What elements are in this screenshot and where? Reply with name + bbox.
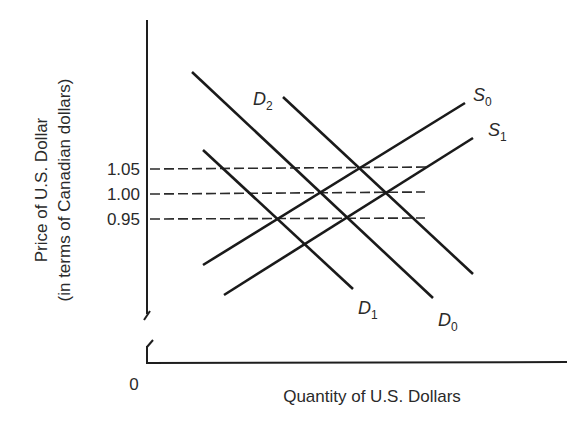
y-tick-105: 1.05 (107, 160, 140, 179)
exchange-rate-chart: 1.05 1.00 0.95 0 Price of U.S. Dollar (i… (0, 0, 585, 429)
y-axis-label-line2: (in terms of Canadian dollars) (55, 79, 74, 302)
supply-curve-s0 (203, 103, 465, 265)
y-axis-label-line1: Price of U.S. Dollar (32, 117, 51, 262)
label-d2: D2 (253, 89, 273, 113)
ref-line-095 (150, 218, 425, 219)
x-axis (147, 362, 567, 363)
y-tick-100: 1.00 (107, 185, 140, 204)
y-tick-095: 0.95 (107, 210, 140, 229)
supply-curve-s1 (224, 138, 473, 295)
origin-label: 0 (129, 375, 138, 394)
axis-break-mark-lower (147, 340, 153, 347)
label-s1: S1 (488, 120, 507, 144)
label-s0: S0 (473, 85, 492, 109)
label-d1: D1 (358, 298, 378, 322)
label-d0: D0 (438, 310, 458, 334)
x-axis-label: Quantity of U.S. Dollars (283, 387, 461, 406)
ref-line-105 (150, 167, 427, 169)
